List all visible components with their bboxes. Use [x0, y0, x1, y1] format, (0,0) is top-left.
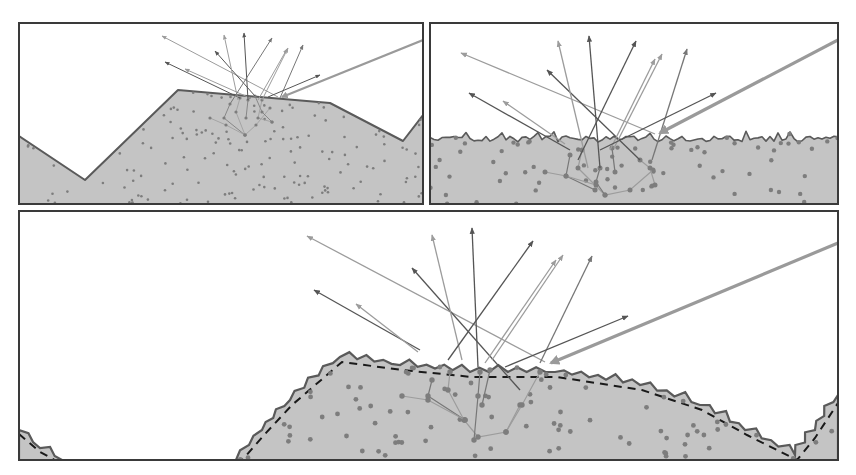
light-scattering-diagram [0, 0, 856, 475]
particle [173, 106, 176, 109]
micro-surface-panel [428, 23, 839, 206]
scatter-node [471, 437, 476, 442]
scatter-node [519, 402, 524, 407]
particle [326, 187, 329, 190]
particle [264, 140, 267, 143]
particle [491, 160, 495, 164]
particle [711, 175, 715, 179]
particle [233, 170, 236, 173]
particle [829, 429, 834, 434]
particle [123, 186, 126, 189]
particle [229, 142, 232, 145]
particle [133, 169, 136, 172]
particle [320, 415, 325, 420]
particle [207, 201, 210, 204]
particle [343, 116, 346, 119]
particle [438, 365, 443, 370]
particle [552, 421, 557, 426]
particle [379, 193, 382, 196]
particle [171, 182, 174, 185]
particle [308, 389, 313, 394]
particle [504, 171, 508, 175]
particle [527, 139, 531, 143]
particle [681, 399, 686, 404]
particle [283, 197, 286, 200]
scatter-node [613, 170, 618, 175]
particle [215, 141, 218, 144]
particle [328, 371, 333, 376]
scatter-node [234, 110, 237, 113]
particle [661, 171, 665, 175]
particle [618, 435, 623, 440]
particle [423, 438, 428, 443]
particle [683, 442, 688, 447]
particle [644, 405, 649, 410]
particle [286, 197, 289, 200]
particle [357, 406, 362, 411]
particle [220, 96, 223, 99]
particle [288, 433, 293, 438]
scatter-node [543, 170, 548, 175]
scatter-node [593, 188, 598, 193]
particle [627, 441, 632, 446]
particle [534, 188, 538, 192]
particle [231, 192, 234, 195]
particle [283, 176, 286, 179]
particle [368, 404, 373, 409]
scatter-node [503, 429, 508, 434]
particle [803, 174, 807, 178]
particle [810, 147, 814, 151]
particle [405, 148, 408, 151]
particle [331, 151, 334, 154]
particle [234, 197, 237, 200]
particle [372, 167, 375, 170]
particle [131, 199, 134, 202]
particle [779, 141, 783, 145]
particle [777, 190, 781, 194]
particle [500, 149, 504, 153]
scatter-node [653, 183, 658, 188]
particle [263, 104, 266, 107]
particle [147, 198, 150, 201]
particle [238, 149, 241, 152]
particle [685, 433, 690, 438]
particle [225, 130, 228, 133]
particle [356, 146, 359, 149]
particle [724, 422, 729, 427]
particle [418, 124, 421, 127]
particle [282, 422, 287, 427]
particle [360, 449, 365, 454]
particle [180, 127, 183, 130]
particle [186, 138, 189, 141]
particle [547, 449, 552, 454]
particle [683, 454, 688, 459]
particle [702, 433, 707, 438]
particle [715, 420, 720, 425]
particle [324, 189, 327, 192]
particle [664, 436, 669, 441]
scatter-node [447, 369, 452, 374]
particle [196, 133, 199, 136]
particle [260, 163, 263, 166]
scatter-node [268, 106, 271, 109]
particle [544, 372, 549, 377]
particle [633, 146, 637, 150]
particle [383, 143, 386, 146]
particle [359, 180, 362, 183]
particle [537, 181, 541, 185]
particle [201, 131, 204, 134]
particle [405, 181, 408, 184]
particle [282, 126, 285, 129]
particle [192, 92, 195, 95]
particle [327, 191, 330, 194]
particle [404, 370, 409, 375]
particle [119, 152, 122, 155]
particle [707, 446, 712, 451]
particle [150, 147, 153, 150]
particle [489, 415, 494, 420]
particle [393, 434, 398, 439]
particle [282, 138, 285, 141]
particle [281, 110, 284, 113]
particle [447, 174, 451, 178]
scatter-node [477, 369, 482, 374]
